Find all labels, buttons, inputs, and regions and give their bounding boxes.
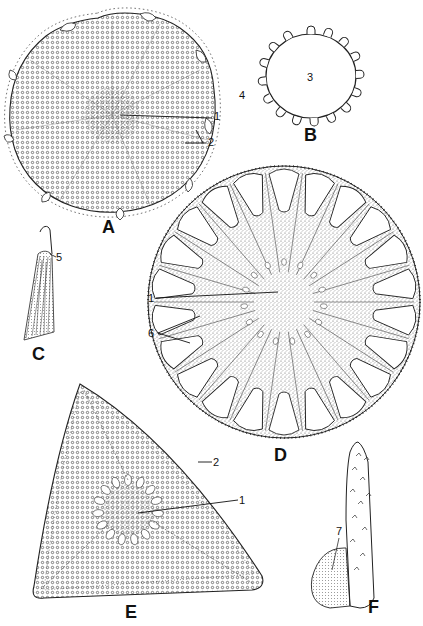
figure-f-drawing [311,442,374,608]
figure-a-label-2: 2 [208,137,214,148]
figure-c-label-5: 5 [56,252,62,263]
figure-f-label-7: 7 [336,526,342,537]
figure-e-label-2: 2 [213,457,219,468]
figure-b-label-4: 4 [239,90,245,101]
figure-c-drawing [24,226,56,340]
figure-d-label-1: 1 [148,293,154,304]
figure-f-letter: F [368,598,379,616]
figure-a-label-1: 1 [214,111,220,122]
plate-illustration [0,0,423,626]
figure-e-label-1: 1 [239,495,245,506]
figure-a-drawing [4,8,220,220]
figure-b-letter: B [304,126,317,144]
figure-d-label-6: 6 [148,328,154,339]
figure-b-label-3: 3 [307,72,313,83]
figure-d-drawing [148,166,420,438]
figure-a-letter: A [102,218,115,236]
figure-e-letter: E [125,603,137,621]
figure-c-letter: C [32,345,45,363]
figure-d-letter: D [274,446,287,464]
